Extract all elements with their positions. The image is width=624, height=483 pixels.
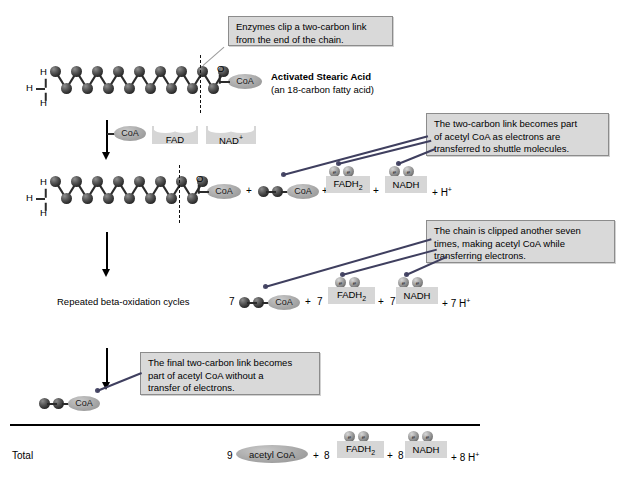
fadh2-label-total: FADH (346, 443, 371, 454)
callout-enzymes-clip: Enzymes clip a two-carbon link from the … (228, 16, 393, 46)
carbon-atom (145, 193, 156, 204)
reaction-arrow-2-shaft (106, 232, 108, 272)
carbon-atom (145, 83, 156, 94)
bond-acetyl-row2 (266, 191, 276, 193)
carbon-atom (103, 83, 114, 94)
plus-total-2: + (387, 450, 393, 461)
fadh2-box-total: FADH2 (337, 441, 384, 458)
coa-label-acetyl-row3: CoA (275, 298, 293, 307)
nad-notch-right (229, 126, 254, 133)
carbon-atom (176, 66, 187, 77)
hydrogen-label-top-row2: H (40, 176, 47, 188)
callout-two-carbon-link-line-1: The two-carbon link becomes part (434, 118, 602, 131)
carbon-atom (113, 66, 124, 77)
callout-clipped-seven-line-3: transferring electrons. (434, 250, 608, 263)
oxygen-label-row1: O (217, 63, 224, 75)
hydrogen-label-left-row2: H (26, 192, 33, 204)
nadh-label-row2: NADH (393, 179, 420, 190)
total-divider-rule (10, 424, 480, 426)
carbon-atom (124, 83, 135, 94)
carbon-atom (92, 176, 103, 187)
carbon-atom (155, 66, 166, 77)
fadh2-box-row2: FADH2 (326, 176, 370, 193)
acetyl-coa-label-total: acetyl CoA (249, 449, 295, 460)
proton-row2: + H+ (432, 184, 452, 199)
bond-h-bottom-row2 (45, 203, 47, 211)
coa-pill-acetyl-row3: CoA (268, 295, 300, 310)
leader-callout2-to-fadh2 (338, 140, 432, 165)
plus-total-1: + (313, 450, 319, 461)
nadh-box-row3: NADH (396, 287, 438, 304)
plus-row2-1: + (246, 185, 252, 196)
hydrogen-label-left: H (26, 82, 33, 94)
carbon-atom (166, 193, 177, 204)
leader-callout2-to-nadh (398, 148, 436, 164)
bond-h-left (36, 88, 45, 90)
carbon-atom (187, 193, 198, 204)
cleavage-dashed-line-row2 (179, 165, 180, 223)
repeated-cycles-label: Repeated beta-oxidation cycles (57, 296, 190, 308)
acetyl-coa-pill-total: acetyl CoA (236, 445, 308, 463)
bond-c-coa-row2 (198, 191, 209, 193)
carbon-atom (155, 176, 166, 187)
coefficient-acetyl-row3: 7 (229, 296, 235, 307)
callout-two-carbon-link-line-2: of acetyl CoA as electrons are (434, 131, 602, 144)
leader-callout3-to-fadh2 (342, 249, 437, 276)
carbon-atom (208, 83, 219, 94)
carbon-atom (134, 176, 145, 187)
nadh-box-total: NADH (405, 441, 447, 458)
coa-label-row2-chain: CoA (215, 187, 233, 196)
cleavage-dashed-line-row1 (200, 55, 201, 113)
fadh2-subscript-row2: 2 (359, 184, 363, 191)
carbon-atom (166, 83, 177, 94)
bond-h-left-row2 (36, 198, 45, 200)
carbon-atom (187, 83, 198, 94)
coa-label-row1: CoA (236, 77, 254, 86)
coefficient-nadh-row3: 7 (390, 296, 396, 307)
nad-label: NAD (219, 135, 239, 146)
figure-title: Activated Stearic Acid (271, 71, 371, 83)
proton-row3: + 7 H+ (442, 295, 470, 310)
carbon-atom (113, 176, 124, 187)
callout-final-link-line-2: part of acetyl CoA without a (148, 370, 313, 383)
coa-pill-acetyl-row4: CoA (68, 396, 100, 411)
coefficient-nadh-total: 8 (398, 450, 404, 461)
fadh2-label-row2: FADH (333, 178, 358, 189)
nad-superscript: + (239, 134, 243, 141)
callout-clipped-seven-line-2: times, making acetyl CoA while (434, 238, 608, 251)
carbon-atom (82, 83, 93, 94)
carbon-atom (61, 193, 72, 204)
carbon-atom (197, 66, 208, 77)
plus-row3-1: + (305, 296, 311, 307)
nad-shuttle-box: NAD+ (206, 126, 256, 144)
carbon-atom (124, 193, 135, 204)
bond-c-coa-row1 (219, 81, 230, 83)
callout-enzymes-clip-line-2: from the end of the chain. (236, 34, 386, 47)
nadh-label-total: NADH (413, 444, 440, 455)
bond-acetyl-row3 (247, 302, 257, 304)
fadh2-box-row3: FADH2 (328, 287, 375, 304)
carbon-atom (50, 176, 61, 187)
callout-clipped-seven-line-1: The chain is clipped another seven (434, 225, 608, 238)
bond-h-bottom (45, 93, 47, 101)
coefficient-fadh2-row3: 7 (317, 296, 323, 307)
proton-total: + 8 H+ (451, 449, 479, 464)
figure-subtitle: (an 18-carbon fatty acid) (271, 84, 374, 96)
fadh2-subscript-row3: 2 (362, 295, 366, 302)
carbon-atom (176, 176, 187, 187)
coefficient-acetyl-total: 9 (227, 450, 233, 461)
coa-pill-input: CoA (114, 126, 146, 141)
coefficient-fadh2-total: 8 (324, 450, 330, 461)
reaction-arrow-2-head (102, 269, 110, 277)
callout-final-link-line-3: transfer of electrons. (148, 382, 313, 395)
hydrogen-label-top: H (40, 66, 47, 78)
coa-label-input: CoA (121, 129, 139, 138)
fadh2-label-row3: FADH (337, 289, 362, 300)
callout-two-carbon-link-line-3: transferred to shuttle molecules. (434, 143, 602, 156)
coa-pill-row2-chain: CoA (207, 184, 241, 199)
carbon-atom (71, 176, 82, 187)
plus-row2-3: + (373, 185, 379, 196)
callout-clipped-seven: The chain is clipped another seven times… (426, 220, 615, 263)
total-label: Total (12, 450, 33, 462)
coa-pill-acetyl-row2: CoA (287, 184, 319, 199)
